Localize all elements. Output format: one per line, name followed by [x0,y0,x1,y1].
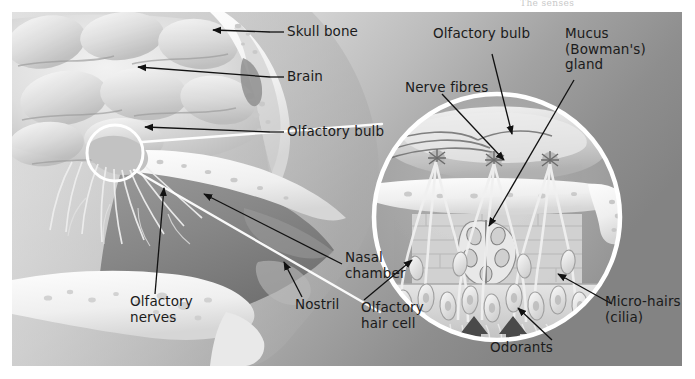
label-odorants: Odorants [490,340,553,356]
label-olfactory-bulb-inset: Olfactory bulb [433,26,530,42]
label-mucus-gland: Mucus (Bowman's) gland [565,26,646,73]
label-skull-bone: Skull bone [287,24,358,40]
label-olfactory-bulb-main: Olfactory bulb [287,124,384,140]
figure-panel: Skull bone Brain Olfactory bulb Olfactor… [12,12,682,366]
label-brain: Brain [287,69,323,85]
label-olfactory-nerves: Olfactory nerves [130,294,193,325]
label-olfactory-hair-cell: Olfactory hair cell [361,300,424,331]
label-nerve-fibres: Nerve fibres [405,80,488,96]
label-nostril: Nostril [295,297,339,313]
label-micro-hairs: Micro-hairs (cilia) [605,294,681,325]
running-head: The senses [520,0,690,8]
page-root: The senses [0,0,695,379]
label-nasal-chamber: Nasal chamber [345,250,406,281]
